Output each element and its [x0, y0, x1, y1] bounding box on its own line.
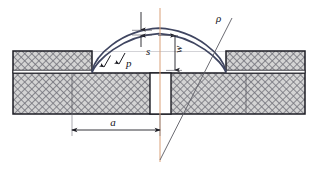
thickness-label: s [146, 45, 150, 57]
deflection-dimension: w [158, 36, 184, 71]
pressure-label: p [125, 57, 132, 69]
deflection-label: w [172, 45, 184, 53]
span-label: a [110, 116, 116, 128]
span-dimension: a [72, 114, 160, 136]
buckled-plate [92, 28, 226, 72]
diagram-root: s w ρ p a [0, 0, 318, 179]
upper-clamp-right [226, 51, 305, 72]
radius-label: ρ [215, 12, 221, 24]
diagram-canvas: s w ρ p a [0, 0, 318, 179]
upper-clamp-left [13, 51, 92, 72]
inner-arc [92, 34, 226, 73]
pressure-arrows: p [104, 53, 132, 69]
